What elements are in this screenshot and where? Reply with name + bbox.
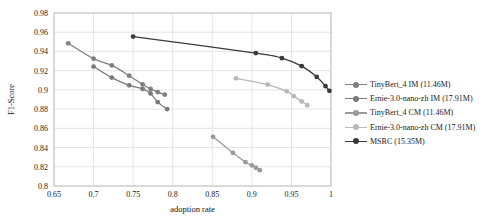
data-point: [323, 84, 328, 89]
y-tick-label: 0.88: [34, 105, 48, 114]
data-point: [140, 82, 145, 87]
y-axis-title: F1-Score: [6, 84, 16, 115]
chart-legend: TinyBert_4 IM (11.46M)Ernie-3.0-nano-zh …: [345, 79, 475, 147]
x-tick-label: 0.75: [126, 190, 140, 199]
legend-item-1[interactable]: Ernie-3.0-nano-zh IM (17.91M): [345, 93, 475, 104]
x-axis-title: adoption rate: [170, 204, 215, 214]
data-point: [305, 103, 310, 108]
legend-item-label: TinyBert_4 IM (11.46M): [370, 80, 451, 89]
legend-item-label: Ernie-3.0-nano-zh IM (17.91M): [370, 94, 473, 103]
data-point: [155, 90, 160, 95]
data-point: [155, 100, 160, 105]
data-point: [230, 150, 235, 155]
x-tick-label: 0.95: [284, 190, 298, 199]
y-tick-label: 0.82: [34, 163, 48, 172]
y-tick-label: 0.9: [38, 86, 48, 95]
legend-marker-icon: [345, 108, 367, 117]
x-tick-label: 0.8: [168, 190, 178, 199]
data-point: [243, 160, 248, 165]
data-point: [314, 75, 319, 80]
data-point: [148, 87, 153, 92]
data-point: [66, 41, 71, 46]
data-point: [131, 34, 136, 39]
plot-background: [54, 13, 331, 186]
data-point: [211, 134, 216, 139]
data-point: [127, 73, 132, 78]
data-point: [127, 83, 132, 88]
data-point: [148, 91, 153, 96]
legend-item-label: Ernie-3.0-nano-zh CM (17.91M): [370, 123, 475, 132]
y-tick-label: 0.86: [34, 124, 48, 133]
legend-marker-icon: [345, 80, 367, 89]
data-point: [257, 168, 262, 173]
data-point: [91, 56, 96, 61]
data-point: [140, 87, 145, 92]
data-point: [253, 51, 258, 56]
x-tick-label: 0.65: [47, 190, 61, 199]
data-point: [91, 64, 96, 69]
y-tick-label: 0.92: [34, 67, 48, 76]
y-tick-label: 0.84: [34, 144, 48, 153]
y-tick-label: 0.96: [34, 28, 48, 37]
legend-item-0[interactable]: TinyBert_4 IM (11.46M): [345, 79, 475, 90]
legend-marker-icon: [345, 123, 367, 132]
data-point: [165, 107, 170, 112]
data-point: [327, 88, 332, 93]
data-point: [280, 56, 285, 61]
x-tick-label: 0.7: [89, 190, 99, 199]
x-tick-label: 0.9: [247, 190, 257, 199]
data-point: [109, 75, 114, 80]
data-point: [162, 92, 167, 97]
y-axis-tick-labels: 0.80.820.840.860.880.90.920.940.960.98: [34, 9, 48, 191]
legend-item-3[interactable]: Ernie-3.0-nano-zh CM (17.91M): [345, 122, 475, 133]
data-point: [291, 94, 296, 99]
legend-item-label: MSRC (15.35M): [370, 137, 425, 146]
y-tick-label: 0.8: [38, 182, 48, 191]
y-tick-label: 0.94: [34, 47, 48, 56]
data-point: [265, 82, 270, 87]
legend-item-4[interactable]: MSRC (15.35M): [345, 136, 475, 147]
data-point: [234, 76, 239, 81]
legend-item-label: TinyBert_4 CM (11.46M): [370, 108, 453, 117]
legend-marker-icon: [345, 94, 367, 103]
x-tick-label: 0.85: [205, 190, 219, 199]
chart-container: 0.650.70.750.80.850.90.951 0.80.820.840.…: [0, 0, 489, 224]
x-axis-tick-labels: 0.650.70.750.80.850.90.951: [47, 190, 333, 199]
legend-item-2[interactable]: TinyBert_4 CM (11.46M): [345, 107, 475, 118]
legend-marker-icon: [345, 137, 367, 146]
y-tick-label: 0.98: [34, 9, 48, 18]
data-point: [299, 99, 304, 104]
data-point: [299, 64, 304, 69]
data-point: [109, 63, 114, 68]
data-point: [284, 89, 289, 94]
x-tick-label: 1: [329, 190, 333, 199]
